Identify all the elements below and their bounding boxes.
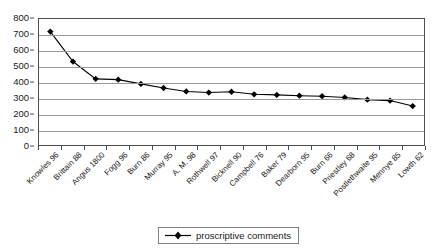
series-proscriptive-comments	[39, 19, 424, 145]
data-point-marker	[160, 85, 166, 91]
legend-marker-icon	[164, 230, 192, 241]
y-tick-label: 300	[13, 93, 29, 103]
y-tick-label: 700	[13, 29, 29, 39]
line-chart: 8007006005004003002001000 Knowles 96Brit…	[0, 0, 437, 252]
gridline	[39, 51, 424, 52]
series-line	[50, 32, 412, 106]
data-point-marker	[228, 89, 234, 95]
x-tick-mark	[402, 146, 403, 150]
y-tick-mark	[30, 98, 34, 99]
x-tick-mark	[129, 146, 130, 150]
y-tick-label: 600	[13, 45, 29, 55]
gridline	[39, 115, 424, 116]
x-tick-mark	[197, 146, 198, 150]
y-tick-label: 100	[13, 125, 29, 135]
y-tick-mark	[30, 146, 34, 147]
x-axis: Knowles 96Brittain 88Angus 1800Fogg 96Bu…	[38, 151, 437, 221]
x-tick-mark	[243, 146, 244, 150]
x-tick-mark	[357, 146, 358, 150]
data-point-marker	[296, 93, 302, 99]
x-tick-mark	[220, 146, 221, 150]
plot-area	[38, 18, 425, 146]
x-tick-mark	[311, 146, 312, 150]
gridline	[39, 83, 424, 84]
y-tick-mark	[30, 50, 34, 51]
x-tick-mark	[61, 146, 62, 150]
data-point-marker	[274, 92, 280, 98]
y-tick-mark	[30, 34, 34, 35]
y-tick-label: 400	[13, 77, 29, 87]
data-point-marker	[183, 88, 189, 94]
y-axis: 8007006005004003002001000	[0, 18, 34, 146]
y-tick-label: 0	[24, 141, 29, 151]
y-tick-label: 800	[13, 13, 29, 23]
x-tick-mark	[106, 146, 107, 150]
x-tick-mark	[152, 146, 153, 150]
gridline	[39, 131, 424, 132]
x-tick-mark	[84, 146, 85, 150]
data-point-marker	[251, 91, 257, 97]
x-tick-mark	[425, 146, 426, 150]
y-tick-mark	[30, 18, 34, 19]
x-tick-mark	[379, 146, 380, 150]
y-tick-mark	[30, 82, 34, 83]
y-tick-mark	[30, 66, 34, 67]
legend-label: proscriptive comments	[196, 231, 291, 241]
data-point-marker	[206, 89, 212, 95]
y-tick-mark	[30, 114, 34, 115]
x-tick-mark	[38, 146, 39, 150]
gridline	[39, 99, 424, 100]
x-tick-mark	[175, 146, 176, 150]
gridline	[39, 67, 424, 68]
chart-legend: proscriptive comments	[158, 227, 299, 244]
x-tick-mark	[334, 146, 335, 150]
x-tick-mark	[288, 146, 289, 150]
y-tick-label: 500	[13, 61, 29, 71]
gridline	[39, 35, 424, 36]
data-point-marker	[409, 103, 415, 109]
x-tick-mark	[266, 146, 267, 150]
y-tick-mark	[30, 130, 34, 131]
y-tick-label: 200	[13, 109, 29, 119]
data-point-marker	[115, 76, 121, 82]
